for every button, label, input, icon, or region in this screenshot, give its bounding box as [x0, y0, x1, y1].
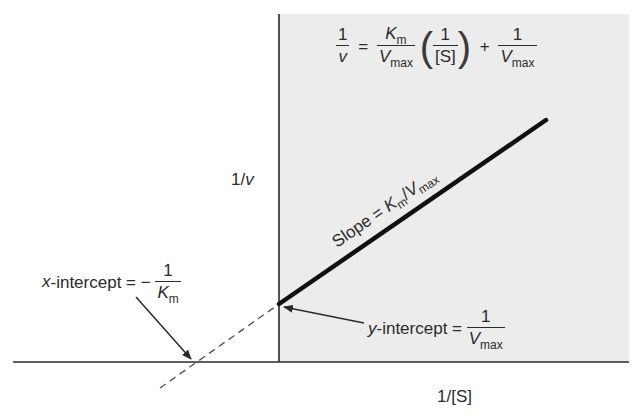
x-intercept-fraction: 1 Km	[155, 261, 180, 305]
vmax-symbol: V	[500, 47, 511, 66]
vmax-symbol: V	[379, 47, 390, 66]
open-paren: (	[420, 25, 433, 69]
vmax-subscript: max	[390, 56, 413, 70]
lineweaver-burk-plot: Slope = Km/Vmax	[0, 0, 640, 419]
vmax-symbol: V	[469, 329, 480, 348]
km-subscript: m	[169, 292, 179, 306]
y-intercept-fraction: 1 Vmax	[467, 307, 505, 351]
y-axis-label: 1/v	[231, 170, 254, 190]
x-intercept-text: -intercept = −	[51, 273, 151, 292]
y-intercept-label: y-intercept = 1 Vmax	[368, 307, 505, 351]
substrate-numerator: 1	[433, 25, 458, 45]
x-axis-label: 1/[S]	[437, 387, 472, 407]
intercept-fraction: 1 Vmax	[498, 25, 536, 69]
equals-sign: =	[354, 37, 372, 56]
substrate-denominator: [S]	[433, 45, 458, 68]
lhs-denominator: v	[336, 45, 349, 68]
close-paren: )	[458, 25, 471, 69]
x-intercept-arrow	[136, 297, 191, 359]
plus-sign: +	[476, 37, 494, 56]
km-symbol: K	[385, 24, 396, 43]
lineweaver-burk-equation: 1 v = Km Vmax ( 1 [S] ) + 1 Vmax	[336, 24, 537, 69]
y-intercept-text: -intercept =	[377, 319, 467, 338]
y-var: y	[368, 319, 377, 338]
y-axis-label-var: v	[245, 170, 254, 189]
km-symbol: K	[157, 283, 168, 302]
km-subscript: m	[397, 33, 407, 47]
intercept-numerator: 1	[498, 25, 536, 45]
vmax-subscript: max	[512, 56, 535, 70]
y-intercept-numerator: 1	[467, 307, 505, 327]
x-intercept-numerator: 1	[155, 261, 180, 281]
y-axis-label-prefix: 1/	[231, 170, 245, 189]
slope-fraction: Km Vmax	[377, 24, 415, 69]
extrapolation-dashed-line	[160, 304, 279, 388]
substrate-fraction: 1 [S]	[433, 25, 458, 68]
vmax-subscript: max	[480, 338, 503, 352]
lhs-numerator: 1	[336, 25, 349, 45]
x-intercept-label: x-intercept = − 1 Km	[42, 261, 181, 305]
lhs-fraction: 1 v	[336, 25, 349, 68]
x-var: x	[42, 272, 51, 291]
